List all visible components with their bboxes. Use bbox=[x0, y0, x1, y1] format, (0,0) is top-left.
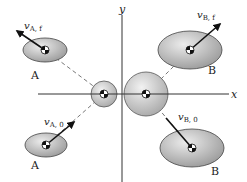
body-A-initial: vA, 0 A bbox=[25, 116, 74, 172]
body-B-initial: vB, 0 B bbox=[160, 111, 224, 178]
center-of-mass-icon bbox=[41, 46, 49, 54]
center-of-mass-icon bbox=[186, 46, 194, 54]
center-of-mass-icon bbox=[142, 90, 150, 98]
velocity-label-A-final: vA, f bbox=[24, 20, 43, 33]
body-B-final-label: B bbox=[208, 64, 216, 77]
center-of-mass-icon bbox=[188, 144, 196, 152]
center-of-mass-icon bbox=[42, 141, 50, 149]
body-A-final: vA, f A bbox=[17, 20, 67, 82]
center-of-mass-icon bbox=[100, 90, 108, 98]
x-axis-label: x bbox=[231, 88, 238, 101]
body-B-initial-label: B bbox=[211, 165, 219, 178]
collision-diagram: x y vA, f A bbox=[0, 0, 247, 182]
velocity-label-A-initial: vA, 0 bbox=[44, 116, 64, 129]
body-B-final: vB, f B bbox=[158, 9, 222, 77]
body-A-initial-label: A bbox=[30, 159, 40, 172]
velocity-label-B-final: vB, f bbox=[197, 9, 216, 22]
body-A-final-label: A bbox=[30, 69, 40, 82]
y-axis-label: y bbox=[118, 3, 126, 16]
velocity-label-B-initial: vB, 0 bbox=[178, 111, 198, 124]
